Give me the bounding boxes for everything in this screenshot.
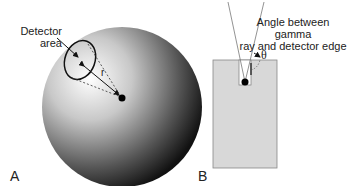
sphere (42, 27, 202, 186)
angle-label: Angle between gamma ray and detector edg… (238, 16, 347, 52)
theta-label: θ (261, 49, 267, 61)
source-point (119, 95, 126, 102)
radius-label: r (101, 67, 104, 79)
panel-label-a: A (10, 168, 19, 184)
panel-label-b: B (198, 168, 207, 184)
source-point-b (242, 79, 249, 86)
detector-area-label: Detector area (12, 25, 62, 49)
